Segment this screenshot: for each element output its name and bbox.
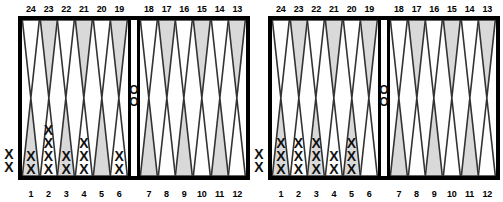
point-numbers-group-home: 181716151413 [390, 4, 496, 15]
point-5[interactable]: XXX [343, 98, 361, 176]
point-13[interactable] [228, 20, 246, 98]
checker-stack-point-5[interactable]: XXX [343, 137, 361, 176]
checker-x[interactable]: X [77, 163, 90, 176]
point-8[interactable] [158, 98, 176, 176]
point-number-4: 4 [75, 189, 93, 200]
point-number-16: 16 [425, 4, 443, 15]
point-22[interactable] [307, 20, 325, 98]
point-number-15: 15 [443, 4, 461, 15]
point-1[interactable]: XXX [272, 98, 290, 176]
point-14[interactable] [211, 20, 229, 98]
bar-checker-stack[interactable]: OO [131, 84, 137, 108]
point-14[interactable] [461, 20, 479, 98]
checker-stack-point-1[interactable]: XX [22, 150, 40, 176]
point-4[interactable]: XXX [75, 98, 93, 176]
checker-x[interactable]: X [253, 161, 266, 174]
point-6[interactable]: XX [110, 98, 128, 176]
point-8[interactable] [408, 98, 426, 176]
point-number-7: 7 [390, 189, 408, 200]
checker-stack-point-6[interactable]: XX [110, 150, 128, 176]
point-number-22: 22 [57, 4, 75, 15]
point-15[interactable] [443, 20, 461, 98]
point-6[interactable] [360, 98, 378, 176]
checker-x[interactable]: X [292, 163, 305, 176]
point-17[interactable] [408, 20, 426, 98]
point-17[interactable] [158, 20, 176, 98]
checker-x[interactable]: X [274, 163, 287, 176]
point-4[interactable]: XX [325, 98, 343, 176]
point-number-18: 18 [390, 4, 408, 15]
point-1[interactable]: XX [22, 98, 40, 176]
checker-o[interactable]: O [378, 96, 390, 108]
board-left: XXXXXXXXXXXXXOOXX24232221201918171615141… [0, 0, 252, 202]
point-number-20: 20 [93, 4, 111, 15]
point-10[interactable] [443, 98, 461, 176]
checker-stack-point-1[interactable]: XXX [272, 137, 290, 176]
quadrant-bottom-right-quadrant [140, 98, 246, 176]
point-2[interactable]: XXXX [40, 98, 58, 176]
point-24[interactable] [272, 20, 290, 98]
point-9[interactable] [175, 98, 193, 176]
point-21[interactable] [75, 20, 93, 98]
point-15[interactable] [193, 20, 211, 98]
point-19[interactable] [110, 20, 128, 98]
checker-x[interactable]: X [60, 163, 73, 176]
point-11[interactable] [461, 98, 479, 176]
point-23[interactable] [40, 20, 58, 98]
point-numbers-group-home: 181716151413 [140, 4, 246, 15]
checker-x[interactable]: X [327, 163, 340, 176]
point-10[interactable] [193, 98, 211, 176]
point-9[interactable] [425, 98, 443, 176]
point-7[interactable] [390, 98, 408, 176]
checker-x[interactable]: X [113, 163, 126, 176]
point-19[interactable] [360, 20, 378, 98]
point-11[interactable] [211, 98, 229, 176]
point-20[interactable] [93, 20, 111, 98]
checker-x[interactable]: X [345, 163, 358, 176]
checker-x[interactable]: X [310, 163, 323, 176]
point-21[interactable] [325, 20, 343, 98]
point-20[interactable] [343, 20, 361, 98]
borne-off-tray[interactable]: XX [1, 148, 17, 174]
point-7[interactable] [140, 98, 158, 176]
point-numbers-top: 242322212019181716151413 [272, 2, 496, 16]
point-number-13: 13 [228, 4, 246, 15]
borne-off-tray[interactable]: XX [251, 148, 267, 174]
point-24[interactable] [22, 20, 40, 98]
point-18[interactable] [140, 20, 158, 98]
point-5[interactable] [93, 98, 111, 176]
point-number-11: 11 [211, 189, 229, 200]
checker-x[interactable]: X [3, 161, 16, 174]
checker-stack-point-2[interactable]: XXX [290, 137, 308, 176]
point-2[interactable]: XXX [290, 98, 308, 176]
point-16[interactable] [175, 20, 193, 98]
checker-x[interactable]: X [42, 163, 55, 176]
point-23[interactable] [290, 20, 308, 98]
point-18[interactable] [390, 20, 408, 98]
point-3[interactable]: XX [57, 98, 75, 176]
checker-stack-point-3[interactable]: XX [57, 150, 75, 176]
point-12[interactable] [228, 98, 246, 176]
point-number-17: 17 [158, 4, 176, 15]
point-12[interactable] [478, 98, 496, 176]
point-numbers-bottom: 123456789101112 [22, 187, 246, 201]
point-number-12: 12 [228, 189, 246, 200]
checker-x[interactable]: X [24, 163, 37, 176]
backgammon-diagram-page: XXXXXXXXXXXXXOOXX24232221201918171615141… [0, 0, 503, 202]
point-number-9: 9 [175, 189, 193, 200]
checker-stack-point-2[interactable]: XXXX [40, 124, 58, 176]
bar[interactable]: OO [128, 20, 140, 176]
point-number-20: 20 [343, 4, 361, 15]
point-number-2: 2 [40, 189, 58, 200]
bar-checker-stack[interactable]: OO [381, 84, 387, 108]
checker-stack-point-3[interactable]: XXX [307, 137, 325, 176]
bar[interactable]: OO [378, 20, 390, 176]
checker-o[interactable]: O [128, 96, 140, 108]
checker-stack-point-4[interactable]: XX [325, 150, 343, 176]
point-16[interactable] [425, 20, 443, 98]
quadrant-top-left-quadrant [272, 20, 378, 98]
point-22[interactable] [57, 20, 75, 98]
point-13[interactable] [478, 20, 496, 98]
point-3[interactable]: XXX [307, 98, 325, 176]
checker-stack-point-4[interactable]: XXX [75, 137, 93, 176]
